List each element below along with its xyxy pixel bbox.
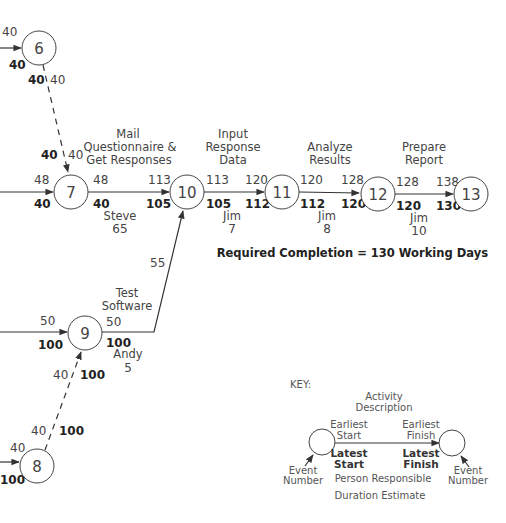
prepare-desc-2: Report [405,153,444,167]
event-number-9: 9 [80,325,90,343]
event-number-6: 6 [34,40,44,58]
key-earliest-start-1: Earliest [330,419,367,430]
input-duration: 7 [228,222,236,236]
dummy67-start-ls: 40 [28,73,45,87]
analyze-desc-2: Results [309,153,351,167]
dummy89-start-ls: 100 [59,424,84,438]
event-number-11: 11 [272,184,291,202]
node8-in-es: 40 [10,441,25,455]
prepare-person: Jim [409,211,428,225]
node7-in-ls: 40 [34,197,51,211]
node7-in-es: 48 [34,173,49,187]
node9-in-ls: 100 [38,338,63,352]
event-number-8: 8 [32,458,42,476]
key-end-event-node [439,430,465,456]
key-earliest-finish-1: Earliest [402,419,439,430]
test-desc-2: Software [102,299,153,313]
analyze-es: 120 [300,173,323,187]
node6-in-es: 40 [2,25,17,39]
mail-desc-1: Mail [116,127,139,141]
node8-in-ls: 100 [0,473,25,487]
key-duration-estimate: Duration Estimate [335,490,426,501]
key-activity-desc-2: Description [356,402,413,413]
dummy67-start-es: 40 [50,73,65,87]
mail-person: Steve [104,209,137,223]
test-desc-1: Test [115,286,139,300]
key-event-number-left-2: Number [283,475,324,486]
dummy89-end-es: 40 [53,368,68,382]
test-slack-label: 55 [150,256,165,270]
event-number-12: 12 [368,186,387,204]
key-event-number-right-2: Number [448,475,489,486]
key-activity-desc-1: Activity [365,391,402,402]
input-desc-1: Input [218,127,248,141]
analyze-duration: 8 [323,222,331,236]
mail-desc-3: Get Responses [86,153,171,167]
key-earliest-start-2: Start [337,430,362,441]
mail-lf: 105 [146,197,171,211]
mail-ef: 113 [148,173,171,187]
mail-duration: 65 [112,222,127,236]
input-person: Jim [222,209,241,223]
mail-desc-2: Questionnaire & [83,140,176,154]
key-latest-finish-2: Finish [403,458,439,470]
dummy67-end-es: 40 [68,148,83,162]
prepare-desc-1: Prepare [402,140,446,154]
input-es: 113 [206,173,229,187]
test-person: Andy [113,347,142,361]
prepare-duration: 10 [411,224,426,238]
dummy89-start-es: 40 [31,424,46,438]
activity-arrow-analyze[interactable] [299,192,359,193]
input-desc-2: Response [205,140,260,154]
input-ef: 120 [245,173,268,187]
key-latest-start-2: Start [334,458,364,470]
key-person-responsible: Person Responsible [335,473,432,484]
dummy67-end-ls: 40 [41,148,58,162]
analyze-ef: 128 [341,173,364,187]
node9-in-es: 50 [40,314,55,328]
key-earliest-finish-2: Finish [407,430,435,441]
test-duration: 5 [124,361,132,375]
legend-key: KEY: Activity Description Earliest Start… [283,379,489,501]
event-number-13: 13 [461,186,480,204]
required-completion: Required Completion = 130 Working Days [217,246,489,260]
node6-in-ls: 40 [9,58,26,72]
event-number-7: 7 [66,184,76,202]
event-number-10: 10 [177,184,196,202]
mail-es: 48 [93,173,108,187]
input-desc-3: Data [219,153,246,167]
analyze-desc-1: Analyze [307,140,352,154]
test-es: 50 [106,315,121,329]
analyze-person: Jim [317,209,336,223]
dummy89-end-ls: 100 [80,368,105,382]
network-diagram: 40 40 6 40 40 40 40 48 40 7 Mail Questio… [0,0,506,523]
key-title: KEY: [290,379,311,390]
prepare-es: 128 [396,175,419,189]
